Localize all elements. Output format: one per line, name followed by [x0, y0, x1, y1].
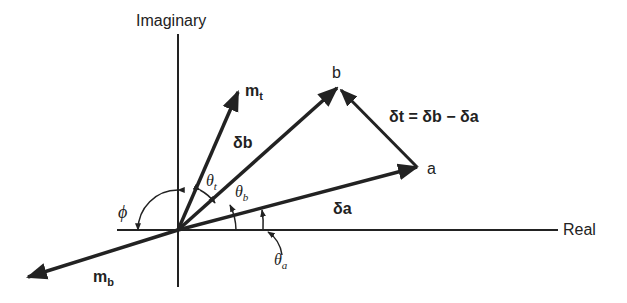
imaginary-axis-label: Imaginary — [136, 12, 206, 29]
real-axis-label: Real — [563, 221, 596, 238]
phasor-diagram: Imaginary Real mt b a mb δb δa δt = δb −… — [0, 0, 627, 303]
theta-t-arc — [200, 190, 215, 203]
delta-b-label: δb — [233, 134, 253, 151]
b-label: b — [332, 64, 341, 81]
delta-a-label: δa — [333, 200, 352, 217]
theta-b-label: θb — [235, 183, 249, 203]
equation-label: δt = δb − δa — [389, 108, 479, 125]
m-b-label: mb — [93, 268, 114, 288]
vector-delta-t — [341, 90, 417, 167]
phi-arc — [138, 190, 178, 230]
theta-t-label: θt — [206, 172, 218, 192]
theta-a-arc — [262, 210, 263, 230]
m-t-label: mt — [245, 82, 263, 102]
phi-label: ϕ — [118, 202, 127, 222]
a-label: a — [427, 160, 436, 177]
theta-a-label: θa — [274, 251, 288, 271]
vector-m-t — [178, 92, 238, 230]
